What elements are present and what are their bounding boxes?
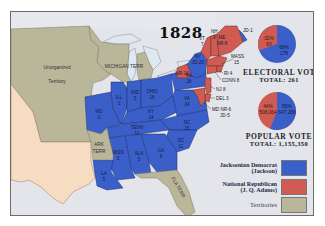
- legend-territories-swatch: [281, 197, 307, 213]
- popular-vote-pie: 44% 508,064 56% 647,286: [258, 92, 296, 130]
- popular-adams-votes: 508,064: [259, 110, 277, 115]
- popular-vote-caption: POPULAR VOTE TOTAL: 1,155,350: [243, 133, 314, 147]
- label-mo: MO: [95, 109, 103, 114]
- label-conn: CONN 8: [222, 78, 240, 83]
- popular-jackson-pct: 56%: [282, 104, 292, 109]
- popular-jackson-votes: 647,286: [278, 110, 296, 115]
- label-sc: SC: [178, 138, 185, 143]
- electoral-vote-caption: ELECTORAL VOTE TOTAL: 261: [243, 69, 314, 83]
- legend-adams-label: National Republican (J. Q. Adams): [223, 181, 278, 194]
- votes-il: 3: [118, 101, 121, 106]
- legend-adams-swatch: [281, 179, 307, 195]
- votes-sc: 11: [179, 144, 184, 149]
- legend-jackson-label: Jacksonian Democrat (Jackson): [220, 162, 277, 175]
- label-tenn: TENN: [131, 125, 144, 130]
- map-title: 1828: [159, 24, 203, 42]
- votes-ala: 5: [138, 157, 141, 162]
- votes-tenn: 11: [135, 131, 140, 136]
- votes-me-nr: NR-8: [217, 41, 228, 46]
- label-nc: NC: [184, 120, 191, 125]
- label-md-jd: JD-5: [220, 113, 230, 118]
- votes-pa: 28: [186, 79, 192, 84]
- label-unorganized-2: Territory: [48, 79, 66, 84]
- votes-nh: 8: [213, 35, 216, 40]
- votes-ny-jd: JD-20: [192, 60, 205, 65]
- label-mass: MASS: [231, 54, 244, 59]
- popular-vote-title: POPULAR VOTE: [243, 133, 314, 140]
- label-unorganized-1: Unorganized: [43, 65, 71, 70]
- votes-ga: 9: [160, 154, 163, 159]
- label-nj: NJ 8: [216, 87, 226, 92]
- label-ala: ALA: [135, 151, 145, 156]
- label-del: DEL 3: [216, 96, 229, 101]
- legend-adams: National Republican (J. Q. Adams): [223, 179, 308, 195]
- label-ga: GA: [158, 148, 166, 153]
- label-ny: NY: [195, 54, 201, 59]
- legend-jackson-swatch: [281, 160, 307, 176]
- votes-mo: 3: [98, 115, 101, 120]
- votes-nc: 15: [184, 126, 190, 131]
- label-ark-terr-2: TERR: [92, 149, 106, 154]
- label-nh: NH: [211, 29, 218, 34]
- votes-ky: 14: [148, 115, 154, 120]
- legend-jackson: Jacksonian Democrat (Jackson): [220, 160, 307, 176]
- electoral-vote-title: ELECTORAL VOTE: [243, 69, 314, 76]
- votes-ind: 5: [134, 96, 137, 101]
- label-ark-terr-1: ARK: [94, 142, 105, 147]
- label-ind: IND: [131, 90, 140, 95]
- votes-miss: 3: [117, 156, 120, 161]
- map-frame: Unorganized Territory MICHIGAN TERR ARK …: [10, 11, 314, 216]
- label-michigan-terr: MICHIGAN TERR: [105, 64, 144, 69]
- electoral-adams-pct: 32%: [264, 36, 274, 41]
- popular-adams-pct: 44%: [263, 104, 273, 109]
- electoral-vote-total: TOTAL: 261: [243, 76, 314, 83]
- label-la: LA: [101, 171, 108, 176]
- popular-vote-total: TOTAL: 1,155,350: [243, 140, 314, 147]
- label-va: VA: [184, 96, 191, 101]
- legend-jackson-line2: (Jackson): [220, 168, 277, 175]
- label-ohio: OHIO: [146, 89, 158, 94]
- votes-ohio: 16: [149, 95, 155, 100]
- label-il: ILL: [116, 95, 123, 100]
- electoral-vote-pie: 32% 83 68% 178: [258, 25, 296, 63]
- electoral-jackson-votes: 178: [280, 51, 288, 56]
- votes-vt: 7: [201, 42, 204, 47]
- legend-territories: Territories: [250, 197, 307, 213]
- votes-mass: 15: [234, 60, 240, 65]
- legend-adams-line2: (J. Q. Adams): [223, 187, 278, 194]
- label-me: ME: [219, 35, 226, 40]
- label-md-nr: MD NR-6: [212, 107, 232, 112]
- legend-territories-label: Territories: [250, 202, 277, 209]
- label-ky: KY: [148, 109, 154, 114]
- votes-ny-nr: NR-16: [175, 71, 189, 76]
- label-ri: RI 4: [224, 71, 233, 76]
- votes-va: 24: [184, 102, 190, 107]
- votes-la: 5: [103, 177, 106, 182]
- electoral-adams-votes: 83: [266, 42, 272, 47]
- votes-me-jd: JD-1: [243, 28, 253, 33]
- label-miss: MISS: [112, 150, 123, 155]
- electoral-jackson-pct: 68%: [279, 45, 289, 50]
